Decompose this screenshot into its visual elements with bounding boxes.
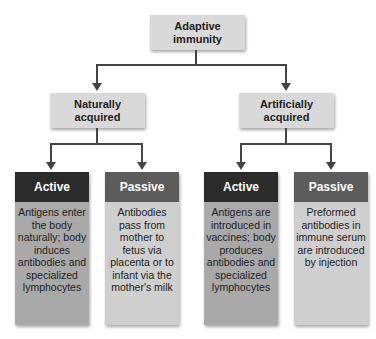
card-description: Antigens are introduced in vaccines; bod… [204, 202, 278, 298]
arrow-down-icon [92, 83, 102, 91]
naturally-acquired-label: Naturally acquired [68, 98, 128, 124]
natural-active-card: Active Antigens enter the body naturally… [15, 172, 89, 325]
naturally-acquired-box: Naturally acquired [50, 93, 145, 128]
card-description: Antibodies pass from mother to fetus via… [105, 202, 179, 298]
artificial-passive-card: Passive Preformed antibodies in immune s… [294, 172, 368, 325]
connector-line [96, 64, 287, 66]
card-description: Preformed antibodies in immune serum are… [294, 202, 368, 273]
arrow-down-icon [281, 83, 291, 91]
connector-line [50, 143, 52, 163]
arrow-down-icon [236, 162, 246, 170]
artificial-active-card: Active Antigens are introduced in vaccin… [204, 172, 278, 325]
connector-line [240, 143, 242, 163]
natural-passive-card: Passive Antibodies pass from mother to f… [105, 172, 179, 325]
artificially-acquired-box: Artificially acquired [239, 93, 334, 128]
connector-line [330, 143, 332, 163]
arrow-down-icon [46, 162, 56, 170]
connector-line [96, 64, 98, 84]
connector-line [50, 143, 143, 145]
adaptive-immunity-box: Adaptive immunity [150, 15, 245, 50]
card-header: Active [15, 172, 89, 202]
arrow-down-icon [326, 162, 336, 170]
connector-line [285, 128, 287, 144]
connector-line [240, 143, 332, 145]
card-header: Passive [294, 172, 368, 202]
connector-line [141, 143, 143, 163]
adaptive-immunity-label: Adaptive immunity [168, 20, 228, 46]
connector-line [96, 128, 98, 144]
connector-line [195, 50, 197, 65]
card-description: Antigens enter the body naturally; body … [15, 202, 89, 298]
artificially-acquired-label: Artificially acquired [257, 98, 317, 124]
card-header: Passive [105, 172, 179, 202]
connector-line [285, 64, 287, 84]
card-header: Active [204, 172, 278, 202]
arrow-down-icon [137, 162, 147, 170]
